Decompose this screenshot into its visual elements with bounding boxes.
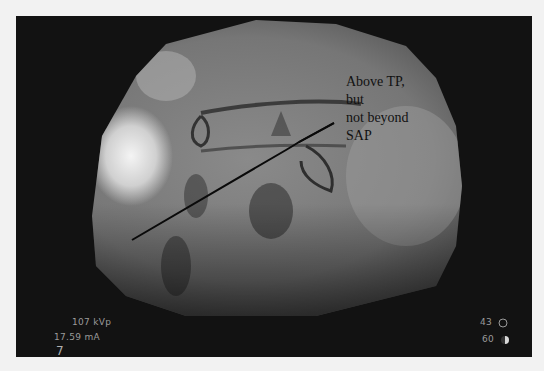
annotation-line: not beyond <box>346 109 409 127</box>
xray-field <box>16 16 532 357</box>
annotation-label: Above TP, but not beyond SAP <box>346 73 409 145</box>
half-moon-icon <box>500 335 510 345</box>
annotation-line: Above TP, <box>346 73 409 91</box>
ma-readout: 17.59 mA <box>54 332 100 342</box>
fluoroscopy-image: Above TP, but not beyond SAP 107 kVp 17.… <box>16 16 532 357</box>
ma-value: 17.59 <box>54 332 81 342</box>
right-top-readout: 43 <box>480 317 508 328</box>
annotation-line: SAP <box>346 127 409 145</box>
right-bottom-readout: 60 <box>482 334 510 345</box>
kvp-unit: kVp <box>93 317 111 327</box>
kvp-readout: 107 kVp <box>72 317 111 327</box>
circle-outline-icon <box>498 318 508 328</box>
right-top-value: 43 <box>480 317 492 327</box>
frame-number: 7 <box>56 344 64 357</box>
annotation-line: but <box>346 91 409 109</box>
right-bottom-value: 60 <box>482 334 494 344</box>
ma-unit: mA <box>84 332 100 342</box>
kvp-value: 107 <box>72 317 90 327</box>
